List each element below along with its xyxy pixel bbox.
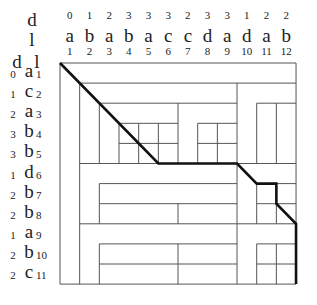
dp-grid: [0, 0, 317, 305]
